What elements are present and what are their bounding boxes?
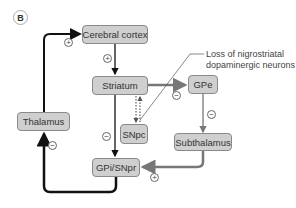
node-gpi-snpr: GPi/SNpr	[92, 158, 140, 177]
pathway-arrows	[0, 0, 296, 208]
sign-gpe-to-subthalamus: −	[207, 110, 216, 119]
sign-striatum-to-gpi: −	[102, 132, 111, 141]
annotation-line-2: dopaminergic neurons	[206, 60, 295, 71]
sign-gpi-to-thalamus: −	[48, 141, 57, 150]
node-cerebral-cortex: Cerebral cortex	[82, 25, 148, 44]
annotation-line-1: Loss of nigrostriatal	[206, 49, 284, 60]
node-snpc: SNpc	[120, 124, 148, 144]
node-striatum: Striatum	[92, 76, 148, 95]
panel-label: B	[13, 10, 28, 25]
sign-striatum-to-gpe: −	[172, 91, 181, 100]
sign-thalamus-to-cortex: +	[64, 38, 73, 47]
node-gpe: GPe	[188, 75, 218, 94]
node-thalamus: Thalamus	[17, 112, 70, 131]
sign-subthalamus-to-gpi: +	[150, 173, 159, 182]
node-subthalamus: Subthalamus	[174, 133, 232, 151]
sign-cortex-to-striatum: +	[103, 54, 112, 63]
